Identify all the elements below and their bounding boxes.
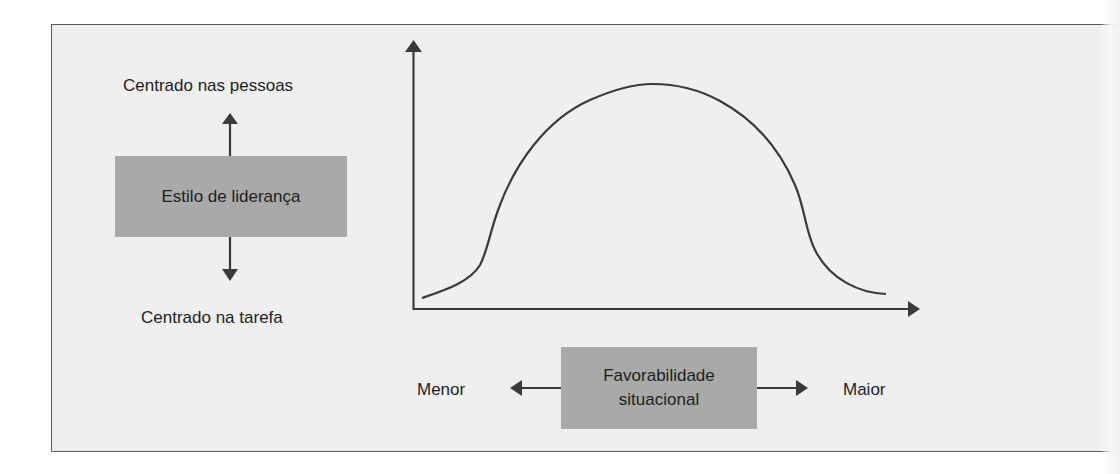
down-arrow-icon xyxy=(222,237,238,281)
up-arrow-icon xyxy=(222,113,238,156)
effectiveness-curve xyxy=(422,84,886,298)
page-edge-shadow xyxy=(1100,0,1120,474)
x-axis xyxy=(413,301,920,317)
y-axis xyxy=(405,40,422,310)
diagram-graphics xyxy=(0,0,1120,474)
right-arrow-icon xyxy=(757,380,808,396)
left-arrow-icon xyxy=(510,380,561,396)
